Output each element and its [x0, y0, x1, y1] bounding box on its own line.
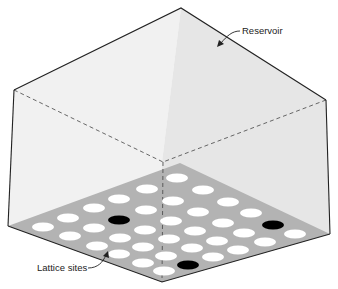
- empty-lattice-site: [181, 243, 203, 252]
- empty-lattice-site: [108, 194, 130, 203]
- empty-lattice-site: [192, 185, 214, 194]
- empty-lattice-site: [136, 184, 158, 193]
- reservoir-lattice-diagram: Reservoir Lattice sites: [0, 0, 338, 289]
- empty-lattice-site: [134, 225, 156, 234]
- empty-lattice-site: [212, 218, 234, 227]
- empty-lattice-site: [166, 173, 188, 182]
- occupied-lattice-site: [262, 220, 284, 229]
- empty-lattice-site: [83, 203, 105, 212]
- empty-lattice-site: [162, 196, 184, 205]
- empty-lattice-site: [83, 223, 105, 232]
- empty-lattice-site: [158, 234, 180, 243]
- empty-lattice-site: [108, 249, 130, 258]
- empty-lattice-site: [132, 258, 154, 267]
- empty-lattice-site: [132, 242, 154, 251]
- empty-lattice-site: [135, 205, 157, 214]
- empty-lattice-site: [233, 228, 255, 237]
- empty-lattice-site: [32, 222, 54, 231]
- lattice-sites-label: Lattice sites: [37, 262, 87, 273]
- empty-lattice-site: [160, 216, 182, 225]
- occupied-lattice-site: [108, 215, 130, 224]
- empty-lattice-site: [155, 251, 177, 260]
- empty-lattice-site: [202, 252, 224, 261]
- empty-lattice-site: [59, 231, 81, 240]
- empty-lattice-site: [254, 237, 276, 246]
- empty-lattice-site: [206, 236, 228, 245]
- empty-lattice-site: [109, 233, 131, 242]
- empty-lattice-site: [240, 208, 262, 217]
- empty-lattice-site: [187, 207, 209, 216]
- empty-lattice-site: [284, 229, 306, 238]
- empty-lattice-site: [217, 197, 239, 206]
- empty-lattice-site: [227, 245, 249, 254]
- empty-lattice-site: [57, 213, 79, 222]
- empty-lattice-site: [86, 241, 108, 250]
- empty-lattice-site: [184, 226, 206, 235]
- empty-lattice-site: [153, 266, 175, 275]
- reservoir-label: Reservoir: [242, 25, 283, 36]
- occupied-lattice-site: [177, 260, 199, 269]
